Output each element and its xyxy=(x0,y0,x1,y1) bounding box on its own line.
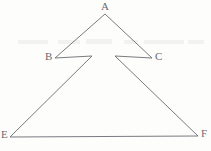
vertex-label-c: C xyxy=(155,51,162,62)
vertex-label-e: E xyxy=(1,129,8,140)
vertex-label-a: A xyxy=(101,1,109,12)
vertex-label-f: F xyxy=(201,128,207,139)
figure-canvas: ABCEF xyxy=(0,0,211,151)
arrow-outline-path xyxy=(10,14,198,137)
vertex-label-b: B xyxy=(45,51,52,62)
arrow-figure xyxy=(0,0,211,151)
